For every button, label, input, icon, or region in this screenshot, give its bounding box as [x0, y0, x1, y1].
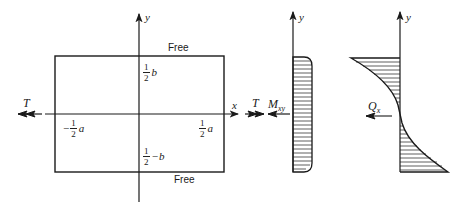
- moment-distribution-shape: [293, 57, 312, 172]
- left-t-label: T: [23, 97, 30, 109]
- right-coordinate-label: 12 a: [199, 118, 213, 139]
- left-tension-arrow-icon: [18, 111, 42, 117]
- shear-label: Qx: [368, 100, 380, 115]
- top-coordinate-label: 12 b: [143, 62, 157, 83]
- left-coordinate-label: − 12 a: [63, 118, 84, 139]
- moment-label: Mxy: [268, 98, 285, 113]
- plate-y-label: y: [145, 12, 150, 23]
- plate-x-label: x: [232, 100, 237, 111]
- bottom-free-label: Free: [174, 175, 195, 185]
- moment-y-label: y: [299, 12, 304, 23]
- shear-y-label: y: [406, 12, 411, 23]
- top-free-label: Free: [168, 43, 189, 53]
- right-tension-arrow-icon: [245, 111, 264, 117]
- bottom-coordinate-label: 12 −b: [143, 146, 164, 167]
- right-t-label: T: [252, 97, 259, 109]
